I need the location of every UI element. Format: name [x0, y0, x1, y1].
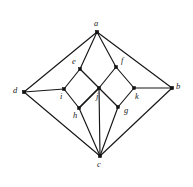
- graph-vertex-j: [98, 87, 101, 90]
- graph-figure: abcdefghijk: [0, 0, 193, 187]
- graph-vertex-k: [133, 87, 136, 90]
- graph-edge-d-c: [24, 92, 100, 156]
- graph-edge-h-c: [79, 108, 100, 156]
- graph-edge-a-b: [97, 32, 172, 88]
- graph-edge-e-j: [80, 69, 99, 88]
- vertex-label-c: c: [97, 160, 101, 169]
- vertex-label-f: f: [121, 56, 123, 65]
- graph-vertex-f: [115, 66, 118, 69]
- graph-vertex-e: [79, 68, 82, 71]
- graph-edge-e-i: [64, 69, 80, 89]
- vertex-label-b: b: [176, 82, 180, 91]
- vertex-label-i: i: [60, 92, 62, 101]
- graph-vertex-a: [95, 30, 98, 33]
- graph-vertex-b: [170, 86, 173, 89]
- vertex-label-h: h: [73, 111, 77, 120]
- graph-edge-j-g: [99, 88, 118, 107]
- graph-vertex-d: [22, 90, 25, 93]
- graph-edge-d-i: [24, 89, 64, 92]
- graph-edge-g-c: [100, 107, 118, 156]
- graph-vertex-c: [98, 154, 101, 157]
- graph-edge-f-k: [116, 67, 134, 88]
- vertex-label-a: a: [94, 19, 98, 28]
- graph-edge-a-f: [97, 32, 116, 67]
- graph-vertex-h: [78, 107, 81, 110]
- vertex-label-e: e: [72, 57, 76, 66]
- vertex-label-k: k: [135, 92, 139, 101]
- vertex-label-g: g: [124, 106, 128, 115]
- vertex-label-j: j: [96, 92, 98, 101]
- graph-edge-i-h: [64, 89, 79, 108]
- graph-edge-a-d: [24, 32, 97, 92]
- graph-vertex-i: [63, 88, 66, 91]
- vertex-label-d: d: [13, 86, 17, 95]
- graph-vertex-g: [117, 106, 120, 109]
- graph-edge-j-c: [99, 88, 100, 156]
- graph-edge-f-j: [99, 67, 116, 88]
- graph-edge-a-e: [80, 32, 97, 69]
